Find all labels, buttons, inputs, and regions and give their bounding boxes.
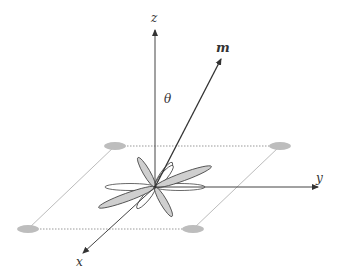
lattice-site xyxy=(104,142,126,150)
axes xyxy=(83,30,318,253)
lattice-site xyxy=(17,225,39,233)
theta-label: θ xyxy=(164,92,172,106)
y-label: y xyxy=(315,171,323,185)
lattice-site xyxy=(269,142,291,150)
diagram-canvas: z y x m θ xyxy=(0,0,341,279)
lattice-site xyxy=(182,225,204,233)
z-label: z xyxy=(150,11,158,25)
m-label: m xyxy=(216,40,230,55)
lattice-edge-left xyxy=(28,146,115,229)
x-label: x xyxy=(76,255,83,269)
